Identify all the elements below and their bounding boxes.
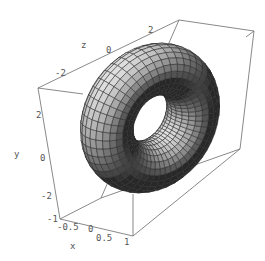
- torus-surface: [81, 43, 220, 193]
- box-edge: [60, 198, 101, 219]
- box-edge: [246, 31, 254, 37]
- surface-patch: [96, 131, 103, 141]
- surface-patch: [189, 116, 196, 121]
- surface-patch: [103, 149, 111, 157]
- z-tick-label: 2: [148, 25, 153, 35]
- y-tick-label: -2: [41, 191, 52, 201]
- surface-patch: [96, 140, 103, 149]
- surface-patch: [103, 141, 110, 149]
- surface-patch: [155, 162, 160, 169]
- box-edge: [38, 88, 83, 94]
- torus-3d-plot: -1-0.500.5120-2-202 x y z: [0, 0, 265, 261]
- surface-patch: [195, 116, 202, 122]
- y-tick-label: 2: [36, 110, 41, 120]
- surface-patch: [110, 140, 117, 148]
- surface-patch: [195, 121, 203, 127]
- surface-patch: [182, 112, 189, 116]
- surface-patch: [181, 109, 188, 113]
- x-tick-label: 0.5: [96, 233, 112, 243]
- y-tick-label: 0: [40, 153, 45, 163]
- z-tick-label: 0: [106, 45, 111, 55]
- x-tick-label: -0.5: [57, 222, 79, 232]
- z-axis-label: z: [81, 40, 86, 50]
- surface-patch: [116, 133, 123, 141]
- surface-patch: [170, 64, 177, 71]
- surface-patch: [103, 132, 110, 141]
- surface-patch: [171, 71, 178, 78]
- x-tick-label: 1: [124, 237, 129, 247]
- surface-patch: [177, 64, 184, 71]
- y-axis-label: y: [14, 149, 20, 159]
- z-tick-label: -2: [55, 68, 66, 78]
- surface-patch: [151, 162, 156, 169]
- box-edge: [179, 20, 254, 31]
- surface-patch: [110, 133, 117, 141]
- box-edge: [240, 31, 254, 149]
- x-tick-label: 0: [88, 224, 93, 234]
- x-axis-label: x: [70, 241, 76, 251]
